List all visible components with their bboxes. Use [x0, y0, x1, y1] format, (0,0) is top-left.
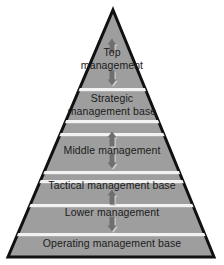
management-pyramid-diagram: Top managementStrategic management baseM… [0, 0, 224, 265]
pyramid-divider [0, 180, 224, 183]
pyramid-graphic [0, 0, 224, 265]
pyramid-divider [0, 88, 224, 91]
pyramid-divider [0, 171, 224, 174]
pyramid-divider [0, 233, 224, 236]
pyramid-divider [0, 120, 224, 123]
